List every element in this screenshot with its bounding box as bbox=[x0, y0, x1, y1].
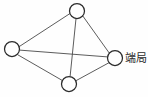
diagram-canvas: 端局 bbox=[0, 0, 148, 97]
edge-top-left bbox=[19, 14, 70, 47]
node-left[interactable] bbox=[5, 42, 20, 57]
edge-group bbox=[18, 14, 110, 81]
edge-right-bottom bbox=[76, 63, 110, 81]
end-office-label: 端局 bbox=[125, 52, 147, 65]
node-right[interactable] bbox=[108, 51, 123, 66]
edge-left-bottom bbox=[18, 55, 62, 81]
node-top[interactable] bbox=[70, 4, 85, 19]
edge-left-right bbox=[20, 50, 108, 57]
node-bottom[interactable] bbox=[62, 77, 77, 92]
label-group: 端局 bbox=[125, 52, 147, 65]
edge-top-right bbox=[83, 16, 110, 54]
network-diagram: 端局 bbox=[0, 0, 148, 97]
edge-top-bottom bbox=[70, 19, 76, 77]
